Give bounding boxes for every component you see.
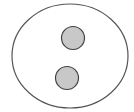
inner-circle-top xyxy=(62,27,85,50)
inner-circle-bottom xyxy=(56,67,79,90)
outer-ellipse xyxy=(12,4,128,108)
diagram-canvas xyxy=(0,0,134,112)
